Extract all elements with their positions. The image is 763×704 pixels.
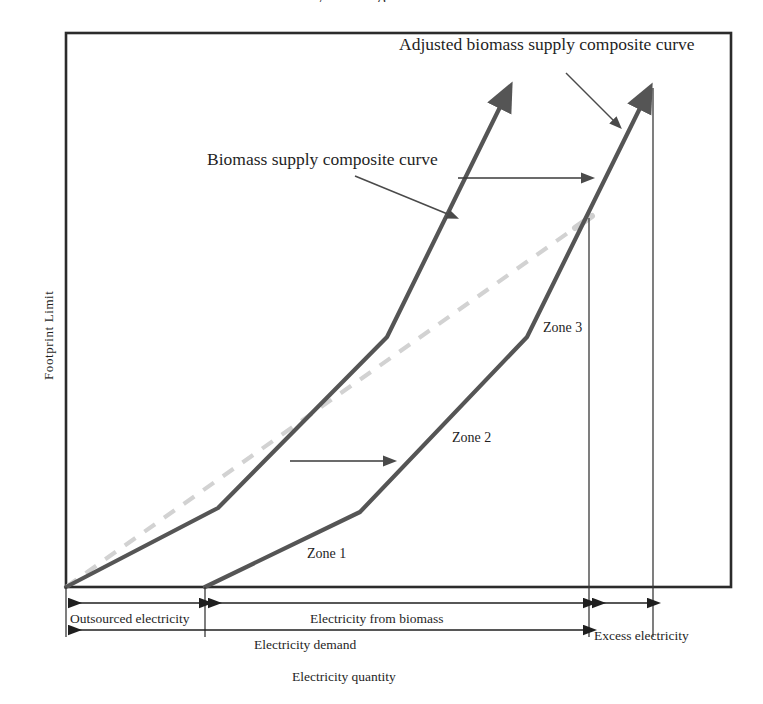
annotation-adjusted-curve: Adjusted biomass supply composite curve — [399, 35, 695, 54]
dashed-ghost-curve — [66, 216, 592, 587]
composite-curve-diagram — [0, 0, 763, 704]
y-axis-label: Footprint Limit — [42, 290, 56, 380]
zone-label-1: Zone 1 — [307, 546, 346, 561]
dimension-label-from-biomass: Electricity from biomass — [310, 612, 443, 627]
biomass-supply-composite-curve — [66, 101, 503, 587]
zone-label-3: Zone 3 — [543, 320, 582, 335]
dimension-label-excess: Excess electricity — [594, 629, 689, 644]
leader-line-adjusted-curve — [566, 73, 615, 122]
dimension-label-outsourced: Outsourced electricity — [70, 612, 190, 627]
annotation-original-curve: Biomass supply composite curve — [207, 150, 438, 169]
zone-label-2: Zone 2 — [452, 430, 491, 445]
x-axis-label: Electricity quantity — [292, 670, 396, 685]
adjusted-biomass-supply-composite-curve — [205, 102, 643, 587]
leader-line-original-curve — [355, 176, 450, 215]
dimension-label-demand: Electricity demand — [254, 638, 356, 653]
figure-root: Electricity Planning — [0, 0, 763, 704]
